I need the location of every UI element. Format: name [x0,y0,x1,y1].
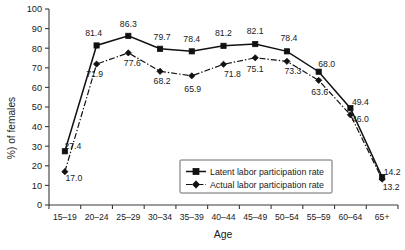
y-tick-label: 20 [32,161,42,171]
data-point-label: 71.9 [86,69,103,79]
data-point-label: 17.0 [65,173,82,183]
x-tick-label: 55–59 [307,212,331,222]
data-point-label: 75.1 [247,64,264,74]
y-tick-label: 0 [37,200,42,210]
data-point-marker [221,43,226,48]
legend-label-latent: Latent labor participation rate [210,167,324,177]
data-point-label: 13.2 [383,182,400,192]
data-point-marker [316,77,322,83]
data-point-marker [220,61,226,67]
data-point-label: 73.3 [284,66,301,76]
data-point-label: 79.7 [154,32,171,42]
data-point-label: 49.4 [352,97,369,107]
data-point-label: 86.3 [120,19,137,29]
x-tick-group: 15–1920–2425–2930–3435–3940–4445–4950–54… [49,205,398,222]
data-point-label: 78.4 [183,34,200,44]
data-point-marker [316,69,321,74]
x-tick-label: 65+ [375,212,390,222]
data-point-marker [284,58,290,64]
y-tick-label: 90 [32,24,42,34]
series-line-latent [65,36,382,177]
data-point-label: 78.4 [280,33,297,43]
data-point-marker [189,73,195,79]
data-point-label: 81.2 [215,28,232,38]
data-point-label: 27.4 [64,141,81,151]
x-tick-label: 35–39 [180,212,204,222]
legend-label-actual: Actual labor participation rate [210,180,324,190]
data-point-label: 82.1 [247,26,264,36]
y-tick-label: 80 [32,44,42,54]
line-chart-svg: %) of females 0102030405060708090100 15–… [0,0,405,250]
y-tick-label: 40 [32,122,42,132]
y-axis-title: %) of females [6,97,17,159]
data-point-label: 77.6 [124,58,141,68]
y-tick-label: 50 [32,102,42,112]
x-axis-title: Age [214,228,233,240]
data-point-marker [125,50,131,56]
y-tick-label: 10 [32,181,42,191]
data-point-label: 68.0 [318,59,335,69]
data-point-marker [157,68,163,74]
x-tick-label: 25–29 [116,212,140,222]
x-tick-label: 50–54 [275,212,299,222]
data-point-label: 46.0 [352,114,369,124]
data-point-label: 81.4 [85,28,102,38]
y-tick-label: 60 [32,83,42,93]
data-point-label: 63.6 [311,87,328,97]
y-tick-label: 70 [32,63,42,73]
y-tick-label: 100 [27,4,42,14]
x-tick-label: 30–34 [148,212,172,222]
legend: Latent labor participation rate Actual l… [180,160,332,193]
x-tick-label: 15–19 [53,212,77,222]
data-point-marker [93,61,99,67]
data-point-label: 68.2 [154,76,171,86]
data-point-label: 65.9 [184,84,201,94]
data-point-label: 71.8 [224,69,241,79]
x-tick-label: 40–44 [212,212,236,222]
data-point-label: 14.2 [384,167,401,177]
data-point-marker [252,55,258,61]
x-tick-label: 45–49 [243,212,267,222]
y-tick-group: 0102030405060708090100 [27,4,49,210]
data-point-marker [284,49,289,54]
data-point-marker [189,49,194,54]
legend-swatch-latent-marker [193,169,199,175]
data-point-marker [157,46,162,51]
data-point-marker [253,41,258,46]
y-tick-label: 30 [32,142,42,152]
x-tick-label: 60–64 [338,212,362,222]
chart-container: %) of females 0102030405060708090100 15–… [0,0,405,250]
data-point-marker [94,43,99,48]
data-point-marker [126,33,131,38]
x-tick-label: 20–24 [85,212,109,222]
